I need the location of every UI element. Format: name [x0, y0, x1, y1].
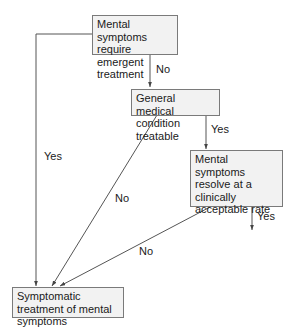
node-text: General medical condition treatable: [136, 92, 180, 142]
flowchart: Mental symptoms require emergent treatme…: [0, 0, 292, 329]
edge-label-n2-n3: Yes: [211, 123, 229, 135]
node-symptomatic-treatment: Symptomatic treatment of mental symptoms: [12, 287, 124, 318]
node-text: Mental symptoms resolve at a clinically …: [195, 153, 270, 215]
edge-label-n1-n2: No: [156, 63, 170, 75]
node-medical-condition-treatable: General medical condition treatable: [131, 89, 220, 116]
edge-n3-n4: [60, 206, 212, 286]
edge-label-n2-n4: No: [115, 192, 129, 204]
edge-label-n3-n4: No: [139, 245, 153, 257]
edge-label-n3-exit: Yes: [257, 210, 275, 222]
node-emergent-treatment: Mental symptoms require emergent treatme…: [92, 15, 178, 55]
edge-label-n1-n4: Yes: [44, 150, 62, 162]
node-symptoms-resolve: Mental symptoms resolve at a clinically …: [190, 150, 283, 207]
node-text: Mental symptoms require emergent treatme…: [97, 18, 147, 80]
